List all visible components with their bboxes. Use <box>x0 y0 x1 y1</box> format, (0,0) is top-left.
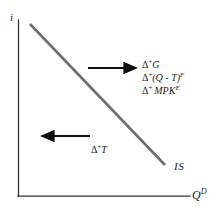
x-axis-label: QD <box>192 189 207 201</box>
variable-mpk: MPK <box>154 85 175 96</box>
is-curve-figure: i QD IS Δ+G Δ+(Q - T)F Δ+MPKE Δ+T <box>0 0 216 213</box>
variable-g: G <box>152 59 159 70</box>
is-curve-label: IS <box>174 161 184 172</box>
x-axis-label-superscript: D <box>201 187 207 196</box>
variable-q-minus-t: (Q - T) <box>152 72 180 83</box>
plot-canvas <box>0 0 216 213</box>
x-axis-label-base: Q <box>192 188 201 202</box>
delta-sign: + <box>148 84 152 91</box>
rightward-shift-label-line-3: Δ+MPKE <box>142 84 184 97</box>
variable-t: T <box>101 144 107 155</box>
rightward-shift-label-group: Δ+G Δ+(Q - T)F Δ+MPKE <box>142 58 184 98</box>
leftward-shift-label: Δ+T <box>91 145 107 155</box>
rightward-shift-label-line-1: Δ+G <box>142 58 184 71</box>
rightward-shift-label-line-2: Δ+(Q - T)F <box>142 71 184 84</box>
y-axis-label: i <box>10 12 13 23</box>
variable-mpk-superscript: E <box>175 84 179 91</box>
variable-q-minus-t-superscript: F <box>180 71 184 78</box>
